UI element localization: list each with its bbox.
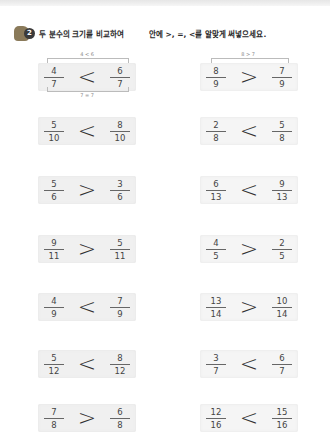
right-fraction: 511 <box>110 238 130 261</box>
hint-numerator: 8 > 7 <box>228 51 268 57</box>
right-fraction: 1516 <box>272 407 292 430</box>
instruction-text-1: 두 분수의 크기를 비교하여 <box>39 28 124 39</box>
instruction-header: 2 두 분수의 크기를 비교하여 안에 >, =, <를 알맞게 써넣으세요. <box>14 26 266 41</box>
problem-item-6: 613 < 913 <box>200 176 298 204</box>
right-fraction: 36 <box>110 179 130 202</box>
right-fraction: 68 <box>110 407 130 430</box>
problem-item-14: 1216 < 1516 <box>200 404 298 432</box>
problem-item-12: 37 < 67 <box>200 350 298 378</box>
hint-numerator: 4 < 6 <box>67 51 107 57</box>
problem-item-11: 512 < 812 <box>38 350 136 378</box>
right-fraction: 58 <box>272 120 292 143</box>
right-fraction: 812 <box>110 353 130 376</box>
numerator-bracket <box>211 58 289 63</box>
problem-item-5: 56 > 36 <box>38 176 136 204</box>
problem-item-4: 28 < 58 <box>200 117 298 145</box>
right-fraction: 79 <box>272 66 292 89</box>
instruction-text-2: 안에 >, =, <를 알맞게 써넣으세요. <box>149 28 266 39</box>
problem-number: 2 <box>24 28 35 39</box>
page-top-band <box>0 0 330 6</box>
problem-item-9: 49 < 79 <box>38 293 136 321</box>
problem-item-10: 1314 > 1014 <box>200 293 298 321</box>
problem-item-3: 510 < 810 <box>38 117 136 145</box>
right-fraction: 1014 <box>272 296 292 319</box>
numerator-bracket <box>47 58 129 63</box>
right-fraction: 810 <box>110 120 130 143</box>
blank-box-example <box>130 29 144 38</box>
problem-item-2: 89 > 79 <box>200 63 298 91</box>
hint-denominator: 7 = 7 <box>67 92 107 98</box>
problem-number-badge: 2 <box>14 26 36 41</box>
right-fraction: 67 <box>272 353 292 376</box>
right-fraction: 79 <box>110 296 130 319</box>
right-fraction: 913 <box>272 179 292 202</box>
right-fraction: 25 <box>272 238 292 261</box>
problem-item-8: 45 > 25 <box>200 235 298 263</box>
problem-item-13: 78 > 68 <box>38 404 136 432</box>
right-fraction: 67 <box>110 66 130 89</box>
problem-item-7: 911 > 511 <box>38 235 136 263</box>
